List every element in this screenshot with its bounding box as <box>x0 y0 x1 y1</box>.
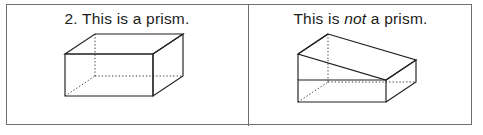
caption-right-emphasis: not <box>344 10 366 27</box>
figure-left <box>6 28 248 122</box>
prism-front-face <box>65 54 153 96</box>
figure-right <box>249 28 472 122</box>
caption-right-tail: a prism. <box>366 10 427 27</box>
panel-left: 2. This is a prism. <box>6 4 248 125</box>
non-prism-wedge-drawing <box>286 28 436 122</box>
caption-left-lead: 2. This is a prism. <box>65 10 190 27</box>
worksheet-item: 2. This is a prism. <box>0 0 483 135</box>
caption-left: 2. This is a prism. <box>6 9 248 28</box>
caption-right-lead: This is <box>293 10 344 27</box>
base-front-face-fill <box>298 80 386 102</box>
caption-right: This is not a prism. <box>249 9 472 28</box>
rectangular-prism-drawing <box>57 28 197 122</box>
panel-right: This is not a prism. <box>249 4 472 125</box>
